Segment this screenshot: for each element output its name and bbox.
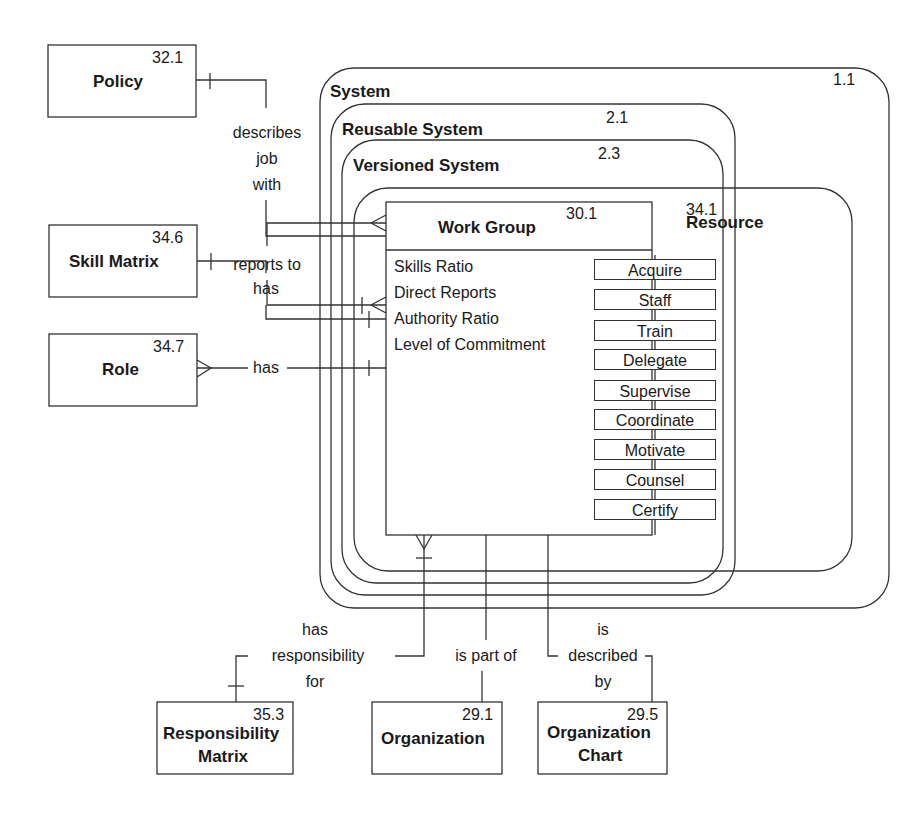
- responsibility-matrix-title-2: Matrix: [198, 748, 248, 765]
- rel-reports-to: reports to: [220, 257, 314, 273]
- work-group-id: 30.1: [566, 206, 597, 222]
- rel-responsibility-3: for: [260, 674, 370, 690]
- attribute: Direct Reports: [394, 285, 496, 301]
- system-label: System: [330, 83, 390, 100]
- attribute: Authority Ratio: [394, 311, 499, 327]
- reusable-system-label: Reusable System: [342, 121, 483, 138]
- organization-chart-title-2: Chart: [578, 747, 622, 764]
- rel-policy-1: describes: [224, 125, 310, 141]
- rel-org-chart-1: is: [558, 622, 648, 638]
- reusable-system-id: 2.1: [606, 110, 628, 126]
- operation-coordinate: Coordinate: [594, 409, 716, 430]
- operation-supervise: Supervise: [594, 380, 716, 401]
- rel-responsibility-1: has: [260, 622, 370, 638]
- operation-train: Train: [594, 320, 716, 341]
- operation-certify: Certify: [594, 499, 716, 520]
- versioned-system-id: 2.3: [598, 146, 620, 162]
- attribute: Level of Commitment: [394, 337, 545, 353]
- versioned-system-label: Versioned System: [353, 157, 499, 174]
- operation-motivate: Motivate: [594, 439, 716, 460]
- policy-id: 32.1: [152, 50, 183, 66]
- organization-chart-title-1: Organization: [547, 724, 651, 741]
- rel-responsibility-2: responsibility: [248, 648, 388, 664]
- rel-policy-2: job: [224, 151, 310, 167]
- rel-org-chart-2: described: [558, 648, 648, 664]
- rel-skill-matrix: has: [240, 281, 292, 297]
- responsibility-matrix-title-1: Responsibility: [163, 725, 279, 742]
- rel-organization: is part of: [436, 648, 536, 664]
- responsibility-matrix-id: 35.3: [253, 707, 284, 723]
- operation-delegate: Delegate: [594, 349, 716, 370]
- operation-counsel: Counsel: [594, 469, 716, 490]
- operation-acquire: Acquire: [594, 259, 716, 280]
- skill-matrix-title: Skill Matrix: [69, 253, 159, 270]
- rel-role: has: [244, 360, 288, 376]
- work-group-title: Work Group: [438, 219, 536, 236]
- role-title: Role: [102, 361, 139, 378]
- rel-policy-3: with: [224, 177, 310, 193]
- organization-id: 29.1: [462, 707, 493, 723]
- organization-title: Organization: [381, 730, 485, 747]
- policy-title: Policy: [93, 73, 143, 90]
- organization-chart-id: 29.5: [627, 707, 658, 723]
- operation-staff: Staff: [594, 289, 716, 310]
- attribute: Skills Ratio: [394, 259, 473, 275]
- system-id: 1.1: [833, 72, 855, 88]
- resource-label: Resource: [686, 214, 763, 231]
- rel-org-chart-3: by: [558, 674, 648, 690]
- role-id: 34.7: [153, 339, 184, 355]
- skill-matrix-id: 34.6: [152, 230, 183, 246]
